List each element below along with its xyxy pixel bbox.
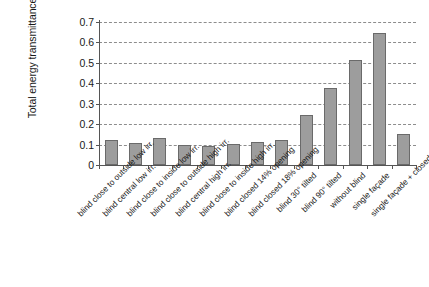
y-axis-tick-mark (96, 83, 100, 84)
y-axis-tick-mark (96, 104, 100, 105)
gridline (99, 63, 416, 64)
bar (373, 33, 386, 165)
bar (324, 88, 337, 165)
x-axis-tick-mark (343, 165, 344, 169)
y-axis-tick-label: 0.7 (34, 17, 94, 28)
y-axis-tick-label: 0.4 (34, 78, 94, 89)
x-axis-tick-mark (392, 165, 393, 169)
bar (153, 138, 166, 165)
gridline (99, 42, 416, 43)
x-axis-tick-mark (318, 165, 319, 169)
bar (349, 60, 362, 165)
gridline (99, 22, 416, 23)
y-axis-tick-label: 0.3 (34, 99, 94, 110)
y-axis-tick-label: 0.5 (34, 58, 94, 69)
y-axis-tick-label: 0 (34, 160, 94, 171)
x-axis-tick-mark (99, 165, 100, 169)
y-axis-tick-mark (96, 145, 100, 146)
y-axis-tick-mark (96, 22, 100, 23)
x-axis-tick-mark (367, 165, 368, 169)
y-axis-tick-mark (96, 124, 100, 125)
y-axis-tick-mark (96, 42, 100, 43)
gridline (99, 104, 416, 105)
y-axis-tick-label: 0.6 (34, 37, 94, 48)
y-axis-tick-label: 0.1 (34, 140, 94, 151)
bar (105, 140, 118, 165)
gridline (99, 83, 416, 84)
y-axis-tick-label: 0.2 (34, 119, 94, 130)
y-axis-tick-mark (96, 63, 100, 64)
bar (397, 134, 410, 165)
gridline (99, 124, 416, 125)
bar-chart: Total energy transmittance 0.70.60.50.40… (0, 0, 429, 287)
